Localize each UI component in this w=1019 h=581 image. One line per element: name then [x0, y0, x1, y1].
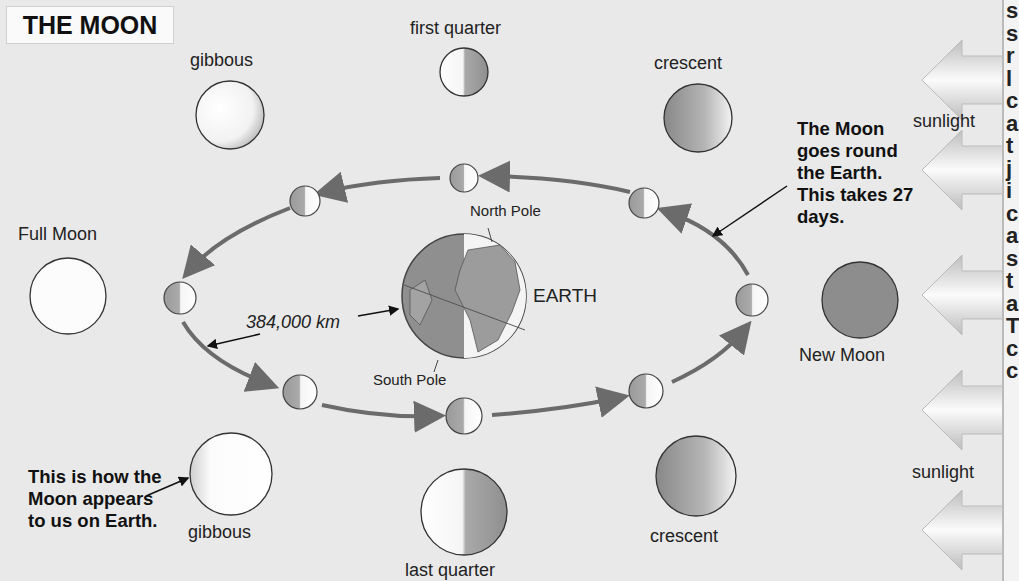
crescent-bottom-label: crescent — [650, 526, 718, 547]
orbit-note: The Moon goes round the Earth. This take… — [797, 118, 917, 228]
full-moon — [30, 258, 106, 334]
sunlight-bottom-label: sunlight — [912, 462, 974, 483]
page-title: THE MOON — [6, 6, 174, 44]
gibbous-bottom-label: gibbous — [188, 522, 251, 543]
gibbous-top-moon — [196, 81, 264, 149]
gibbous-bottom-moon — [190, 433, 272, 515]
cropped-side-text: ssrlcatjicastaTcc — [1002, 0, 1019, 581]
gibbous-top-label: gibbous — [190, 50, 253, 71]
first-quarter-moon — [440, 48, 488, 96]
new-moon-label: New Moon — [799, 345, 885, 366]
full-moon-label: Full Moon — [18, 224, 97, 245]
appearance-note: This is how the Moon appears to us on Ea… — [28, 466, 168, 532]
new-moon — [822, 262, 898, 338]
earth-label: EARTH — [533, 285, 597, 307]
last-quarter-moon — [421, 469, 507, 555]
sunlight-top-label: sunlight — [913, 111, 975, 132]
crescent-top-label: crescent — [654, 53, 722, 74]
crescent-top-moon — [664, 84, 732, 152]
first-quarter-label: first quarter — [410, 18, 501, 39]
last-quarter-label: last quarter — [405, 560, 495, 581]
crescent-bottom-moon — [656, 436, 736, 516]
north-pole-label: North Pole — [470, 202, 541, 219]
earth-globe — [402, 228, 526, 372]
south-pole-label: South Pole — [373, 371, 446, 388]
distance-label: 384,000 km — [246, 312, 340, 333]
